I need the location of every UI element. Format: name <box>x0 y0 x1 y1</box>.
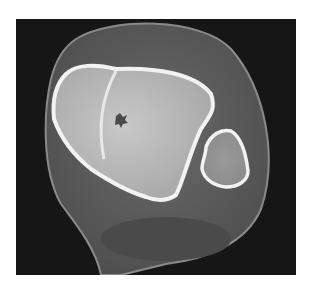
ct-scan-image <box>16 19 296 275</box>
ct-scan-illustration <box>16 19 296 275</box>
